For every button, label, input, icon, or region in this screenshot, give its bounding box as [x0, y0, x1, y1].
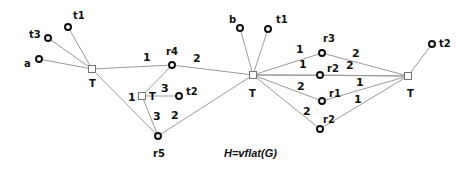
diagram-caption: H=vflat(G)	[224, 147, 277, 159]
edge-t1-Tleft	[68, 27, 92, 69]
vertex-label-t1-mid: t1	[276, 14, 288, 25]
weight-Tinner-left: 1	[128, 91, 136, 104]
vertex-label-r2-lower: r2	[323, 114, 335, 125]
t-label-mid: T	[249, 88, 256, 99]
vertex-label-r2-upper: r2	[327, 63, 339, 74]
weight-r2u-Tright: 2	[346, 59, 354, 72]
weight-Tinner-r5: 3	[153, 110, 161, 123]
vertex-t3	[45, 35, 51, 41]
edge-Tright-t2	[408, 44, 432, 76]
edges	[39, 27, 432, 136]
graph-diagram: T T T T a t3 t1 r4 t2 r5 b t1 r3 r2 r1 r…	[0, 0, 471, 173]
vertex-label-t2-right: t2	[439, 38, 451, 49]
vertex-label-t1-left: t1	[73, 10, 85, 21]
vertex-label-r5: r5	[153, 148, 165, 159]
edge-Tleft-r4	[92, 65, 172, 69]
edge-Tmid-r3	[253, 53, 322, 75]
edge-Tmid-r2l	[253, 75, 320, 129]
vertices	[36, 24, 435, 139]
vertex-label-t2-inner: t2	[186, 86, 198, 97]
vertex-r1	[319, 98, 325, 104]
vertex-r5	[155, 133, 161, 139]
t-label-left: T	[89, 78, 96, 89]
t-nodes: T T T T	[89, 66, 415, 103]
weight-Tmid-r1: 2	[297, 80, 305, 93]
vertex-label-b: b	[229, 14, 236, 25]
vertex-t2-right	[429, 41, 435, 47]
vertex-label-a: a	[24, 58, 31, 69]
weight-r4-Tmid: 2	[193, 52, 201, 65]
vertex-r4	[169, 62, 175, 68]
vertex-label-r3: r3	[323, 33, 335, 44]
edge-Tleft-r5	[92, 69, 158, 136]
weight-Tinner-r4: 3	[161, 82, 169, 95]
weight-r1-Tright-b: 1	[354, 93, 362, 106]
t-node-right	[405, 73, 412, 80]
vertex-t1-left	[65, 24, 71, 30]
t-label-right: T	[407, 88, 414, 99]
t-node-inner	[139, 93, 146, 100]
t-node-left	[89, 66, 96, 73]
vertex-r3	[319, 50, 325, 56]
weight-Tleft-r4: 1	[143, 51, 151, 64]
vertex-label-t3: t3	[29, 29, 41, 40]
vertex-r2-upper	[317, 72, 323, 78]
t-node-mid	[250, 72, 257, 79]
vertex-r2-lower	[317, 126, 323, 132]
weight-Tmid-r2l: 2	[303, 105, 311, 118]
vertex-label-r1: r1	[329, 88, 341, 99]
weight-Tmid-r2u: 1	[299, 58, 307, 71]
edge-r5-Tmid	[158, 75, 253, 136]
edge-r4-Tmid	[172, 65, 253, 75]
weight-Tmid-r3: 1	[296, 43, 304, 56]
edge-Tmid-r1	[253, 75, 322, 101]
vertex-a	[36, 56, 42, 62]
weight-r5-Tmid: 2	[171, 109, 179, 122]
vertex-label-r4: r4	[166, 46, 178, 57]
edge-t1-Tmid	[253, 29, 268, 75]
vertex-b	[237, 25, 243, 31]
edge-b-Tmid	[240, 28, 253, 75]
vertex-t2-inner	[176, 93, 182, 99]
vertex-t1-mid	[265, 26, 271, 32]
weight-r1-Tright-a: 1	[356, 76, 364, 89]
t-label-inner: T	[149, 91, 156, 102]
